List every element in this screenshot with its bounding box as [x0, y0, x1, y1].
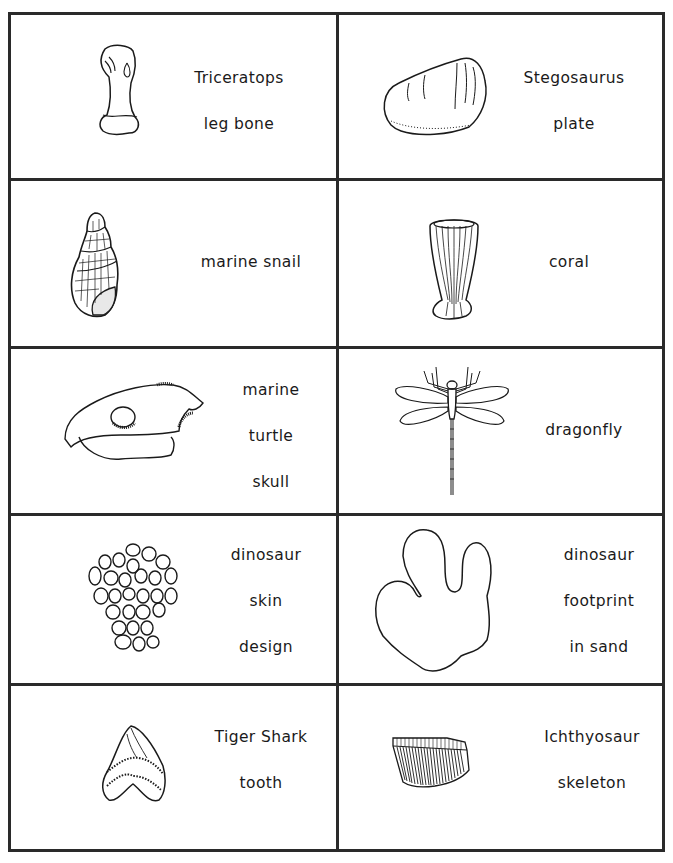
card-label: marine snail — [186, 239, 316, 285]
card-label: coral — [519, 239, 619, 285]
card-dinosaur-footprint: dinosaur footprint in sand — [339, 516, 665, 683]
shark-tooth-icon — [101, 724, 171, 804]
card-ichthyosaur-skeleton: Ichthyosaur skeleton — [339, 686, 665, 852]
dinosaur-skin-icon — [89, 544, 189, 654]
card-coral: coral — [339, 181, 665, 346]
dragonfly-icon — [394, 359, 514, 499]
card-dinosaur-skin-design: dinosaur skin design — [11, 516, 336, 683]
ichthyosaur-skeleton-icon — [391, 736, 471, 792]
footprint-icon — [375, 526, 505, 676]
stegosaurus-plate-icon — [379, 55, 494, 140]
turtle-skull-icon — [61, 379, 211, 469]
fossil-card-grid: Triceratops leg bone Stegosaurus plate m… — [8, 12, 665, 852]
card-label: dinosaur footprint in sand — [549, 532, 649, 670]
card-label: Tiger Shark tooth — [206, 714, 316, 806]
card-label: dragonfly — [529, 407, 639, 453]
card-label: Triceratops leg bone — [179, 55, 299, 147]
card-dragonfly: dragonfly — [339, 349, 665, 513]
card-marine-turtle-skull: marine turtle skull — [11, 349, 336, 513]
card-triceratops-leg-bone: Triceratops leg bone — [11, 15, 336, 178]
card-label: Stegosaurus plate — [514, 55, 634, 147]
card-label: Ichthyosaur skeleton — [537, 714, 647, 806]
marine-snail-icon — [69, 211, 121, 321]
card-tiger-shark-tooth: Tiger Shark tooth — [11, 686, 336, 852]
coral-icon — [426, 216, 482, 322]
card-label: marine turtle skull — [221, 367, 321, 505]
triceratops-leg-bone-icon — [91, 43, 151, 138]
card-stegosaurus-plate: Stegosaurus plate — [339, 15, 665, 178]
card-label: dinosaur skin design — [216, 532, 316, 670]
card-marine-snail: marine snail — [11, 181, 336, 346]
